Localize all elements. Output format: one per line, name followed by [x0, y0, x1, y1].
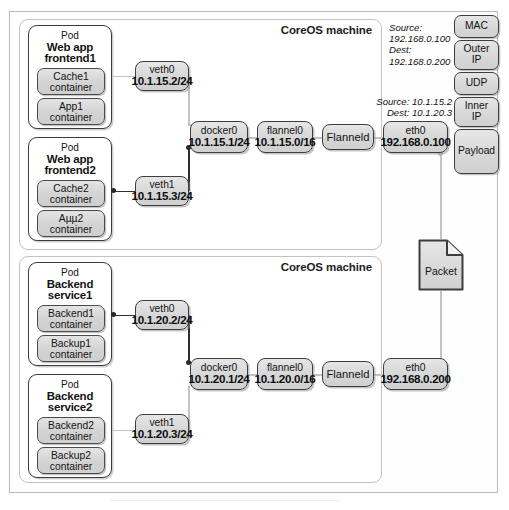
container-backup2: Backup2 container — [37, 447, 105, 474]
net-node-addr: 192.168.0.200 — [380, 373, 450, 386]
packet-doc-shape — [417, 238, 465, 292]
container-kind: container — [50, 319, 92, 330]
net-node-veth0-top: veth0 10.1.15.2/24 — [135, 61, 189, 91]
container-kind: container — [50, 194, 92, 205]
net-node-addr: 10.1.20.1/24 — [189, 373, 250, 386]
annotation-line: Dest: 10.1.20.3 — [370, 107, 452, 118]
net-node-flanneld-bottom: Flanneld — [322, 361, 374, 387]
pod-name-line2: frontend2 — [29, 165, 111, 177]
net-node-eth0-top: eth0 192.168.0.100 — [383, 121, 448, 153]
packet-label: Packet — [417, 266, 465, 277]
container-app1: App1 container — [37, 98, 105, 125]
annotation-line: Source: 10.1.15.2 — [370, 96, 452, 107]
annotation-line: Dest: — [389, 44, 453, 55]
pod-name-line2: frontend1 — [29, 53, 111, 65]
container-name: Backup1 — [51, 338, 91, 349]
container-kind: container — [50, 224, 92, 235]
net-node-addr: 10.1.20.0/16 — [255, 373, 316, 386]
pod-name-line2: service1 — [29, 290, 111, 302]
pod-kind-label: Pod — [29, 379, 111, 391]
net-node-addr: 10.1.15.3/24 — [132, 190, 193, 203]
container-name: Backend1 — [48, 308, 94, 319]
pod-backend-service1: Pod Backend service1 Backend1 container … — [28, 262, 112, 366]
pod-kind-label: Pod — [29, 142, 111, 154]
container-kind: container — [50, 431, 92, 442]
net-node-veth1-bottom: veth1 10.1.20.3/24 — [135, 414, 189, 444]
annotation-line: 192.168.0.100 — [389, 33, 453, 44]
packet-layer-outer-ip: OuterIP — [454, 40, 499, 70]
container-app2: Aµµ2 container — [37, 210, 105, 237]
container-kind: container — [50, 461, 92, 472]
container-cache1: Cache1 container — [37, 68, 105, 95]
net-node-docker0-bottom: docker0 10.1.20.1/24 — [190, 358, 248, 390]
packet-layer-mac: MAC — [454, 15, 499, 38]
container-backend2: Backend2 container — [37, 417, 105, 444]
net-node-name: Flanneld — [327, 132, 370, 143]
annotation-line: 192.168.0.200 — [389, 56, 453, 67]
net-node-addr: 10.1.15.2/24 — [132, 75, 193, 88]
pod-backend-service2: Pod Backend service2 Backend2 container … — [28, 374, 112, 478]
pod-web-app-frontend1: Pod Web app frontend1 Cache1 container A… — [28, 25, 112, 129]
net-node-addr: 10.1.15.1/24 — [189, 136, 250, 149]
wire-dot — [111, 312, 116, 317]
net-node-flannel0-top: flannel0 10.1.15.0/16 — [257, 121, 313, 153]
container-kind: container — [50, 349, 92, 360]
packet-layer-label: MAC — [465, 21, 488, 32]
pod-backend2-title: Pod Backend service2 — [29, 379, 111, 414]
packet-layer-udp: UDP — [454, 72, 499, 95]
packet-layer-label: UDP — [466, 78, 488, 89]
container-name: Aµµ2 — [59, 213, 83, 224]
packet-layer-label: InnerIP — [465, 101, 488, 123]
host-label-top: CoreOS machine — [281, 24, 372, 36]
pod-name-line2: service2 — [29, 402, 111, 414]
wire-eth0top-packet — [440, 153, 442, 239]
container-kind: container — [50, 82, 92, 93]
container-name: Cache2 — [53, 183, 89, 194]
pod-kind-label: Pod — [29, 267, 111, 279]
packet-layer-label: Payload — [458, 146, 495, 157]
scan-artifact — [110, 500, 340, 501]
inner-ip-annotation: Source: 10.1.15.2 Dest: 10.1.20.3 — [370, 96, 452, 118]
net-node-docker0-top: docker0 10.1.15.1/24 — [190, 121, 248, 153]
container-backend1: Backend1 container — [37, 305, 105, 332]
diagram-canvas: CoreOS machine Pod Web app frontend1 Cac… — [0, 0, 509, 510]
packet-document-icon: Packet — [417, 238, 465, 292]
annotation-line: Source: — [389, 22, 453, 33]
net-node-addr: 192.168.0.100 — [380, 136, 450, 149]
net-node-flannel0-bottom: flannel0 10.1.20.0/16 — [257, 358, 313, 390]
net-node-flanneld-top: Flanneld — [322, 124, 374, 150]
packet-layer-payload: Payload — [454, 129, 499, 174]
container-name: Cache1 — [53, 71, 89, 82]
packet-layer-label: OuterIP — [464, 44, 490, 66]
container-backup1: Backup1 container — [37, 335, 105, 362]
net-node-name: Flanneld — [327, 369, 370, 380]
pod-web-app-frontend2: Pod Web app frontend2 Cache2 container A… — [28, 137, 112, 241]
container-name: App1 — [59, 101, 83, 112]
container-kind: container — [50, 112, 92, 123]
host-label-bottom: CoreOS machine — [281, 261, 372, 273]
net-node-veth0-bottom: veth0 10.1.20.2/24 — [135, 300, 189, 330]
container-name: Backend2 — [48, 420, 94, 431]
net-node-addr: 10.1.15.0/16 — [255, 136, 316, 149]
container-cache2: Cache2 container — [37, 180, 105, 207]
pod-kind-label: Pod — [29, 30, 111, 42]
wire-dot — [111, 188, 116, 193]
packet-layer-inner-ip: InnerIP — [454, 97, 499, 127]
net-node-veth1-top: veth1 10.1.15.3/24 — [135, 176, 189, 206]
pod-frontend1-title: Pod Web app frontend1 — [29, 30, 111, 65]
outer-ip-annotation: Source: 192.168.0.100 Dest: 192.168.0.20… — [389, 22, 453, 67]
container-name: Backup2 — [51, 450, 91, 461]
net-node-addr: 10.1.20.2/24 — [132, 314, 193, 327]
net-node-eth0-bottom: eth0 192.168.0.200 — [383, 358, 448, 390]
pod-frontend2-title: Pod Web app frontend2 — [29, 142, 111, 177]
net-node-addr: 10.1.20.3/24 — [132, 428, 193, 441]
pod-backend1-title: Pod Backend service1 — [29, 267, 111, 302]
